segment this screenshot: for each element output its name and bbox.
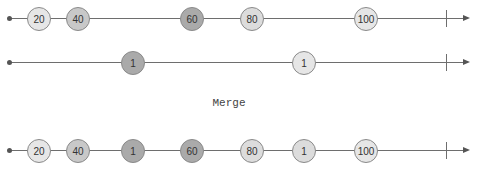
marble: 20: [27, 139, 51, 163]
operator-label: Merge: [0, 97, 458, 109]
marble: 1: [121, 51, 145, 75]
marble: 40: [66, 7, 90, 31]
timeline-axis: [9, 62, 467, 63]
marble: 80: [240, 139, 264, 163]
marble: 1: [292, 139, 316, 163]
marble: 80: [240, 7, 264, 31]
source-stream-a: 20 40 60 80 100: [0, 4, 483, 34]
completion-tick: [446, 10, 447, 27]
source-stream-b: 1 1: [0, 48, 483, 78]
stream-start-dot: [7, 16, 12, 21]
marble: 1: [121, 139, 145, 163]
time-arrow-icon: [463, 59, 470, 65]
marble: 1: [292, 51, 316, 75]
merged-output-stream: 20 40 1 60 80 1 100: [0, 136, 483, 166]
marble: 40: [66, 139, 90, 163]
time-arrow-icon: [463, 15, 470, 21]
marble: 60: [180, 7, 204, 31]
marble: 20: [27, 7, 51, 31]
completion-tick: [446, 142, 447, 159]
operator-name: Merge: [212, 97, 245, 109]
stream-start-dot: [7, 60, 12, 65]
time-arrow-icon: [463, 147, 470, 153]
completion-tick: [446, 54, 447, 71]
stream-start-dot: [7, 148, 12, 153]
marble: 100: [354, 139, 378, 163]
marble: 100: [354, 7, 378, 31]
marble: 60: [180, 139, 204, 163]
